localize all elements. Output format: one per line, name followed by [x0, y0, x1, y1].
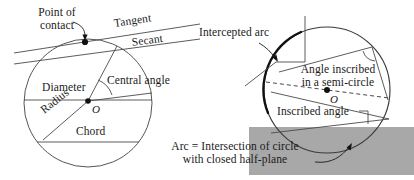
left-center-dot: [85, 98, 91, 104]
central-angle-label: Central angle: [107, 74, 170, 87]
intercepted-arc-label: Intercepted arc: [199, 26, 269, 39]
chord-label: Chord: [76, 125, 105, 138]
point-of-contact-line1: Point of: [38, 6, 76, 18]
arc-definition-caption: Arc = Intersection of circle with closed…: [145, 140, 325, 166]
angle-inscribed-label: Angle inscribed in a semi-circle: [290, 63, 386, 89]
arc-definition-line1: Arc = Intersection of circle: [171, 140, 298, 152]
circle-terminology-figure: Point of contact Tangent Secant Diameter…: [0, 0, 414, 180]
inscribed-angle-label: Inscribed angle: [277, 105, 349, 118]
angle-inscribed-line1: Angle inscribed: [301, 63, 376, 75]
point-of-contact-line2: contact: [40, 19, 74, 31]
secant-line: [14, 39, 200, 64]
angle-inscribed-line2: in a semi-circle: [302, 76, 374, 88]
left-center-o-label: O: [92, 103, 100, 116]
arc-definition-line2: with closed half-plane: [183, 153, 287, 165]
point-of-contact-label: Point of contact: [26, 6, 88, 32]
intercepted-arc-chord-extension: [245, 62, 276, 86]
